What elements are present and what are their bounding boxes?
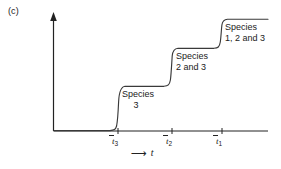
step-label-species-1-2-and-3: Species 1, 2 and 3 xyxy=(225,22,265,44)
x-tick-label-t1-subscript: 1 xyxy=(219,140,223,147)
x-axis-title: ⟶t xyxy=(131,147,154,160)
x-axis-title-variable: t xyxy=(147,147,154,158)
x-tick-label-t1-overbar xyxy=(213,135,218,136)
y-axis xyxy=(50,12,57,131)
x-tick-label-t2-overbar xyxy=(163,135,168,136)
x-tick-label-t1-variable: t xyxy=(216,136,219,146)
x-tick-label-t3-subscript: 3 xyxy=(115,140,119,147)
x-tick-label-t3: t3 xyxy=(112,136,118,147)
step-label-species-2-and-3-line-2: 2 and 3 xyxy=(176,62,208,73)
x-tick-label-t2-subscript: 2 xyxy=(169,140,173,147)
x-tick-label-t3-variable: t xyxy=(112,136,115,146)
x-tick-label-t1: t1 xyxy=(216,136,222,147)
x-tick-label-t3-overbar xyxy=(109,135,114,136)
step-label-species-1-2-and-3-line-1: Species xyxy=(225,22,257,32)
step-label-species-1-2-and-3-line-2: 1, 2 and 3 xyxy=(225,33,265,44)
y-axis-arrowhead xyxy=(50,12,57,21)
step-label-species-3: Species 3 xyxy=(122,89,154,111)
x-tick-label-t2-variable: t xyxy=(166,136,169,146)
step-label-species-2-and-3-line-1: Species xyxy=(176,51,208,61)
step-label-species-3-line-2: 3 xyxy=(122,100,154,111)
x-tick-label-t2: t2 xyxy=(166,136,172,147)
figure-panel-c: (c) Total solvent concentration in efflu… xyxy=(0,0,281,169)
step-label-species-3-line-1: Species xyxy=(122,89,154,99)
x-axis-arrow-icon: ⟶ xyxy=(131,147,147,160)
step-label-species-2-and-3: Species 2 and 3 xyxy=(176,51,208,73)
